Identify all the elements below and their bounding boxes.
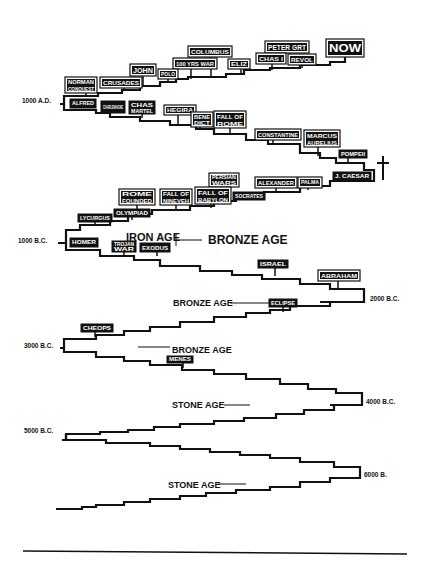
event-text: FALL OF [163,191,189,197]
event-label: HOMER [70,238,98,247]
event-text: FALL OF [217,114,243,120]
event-text: CHEOPS [83,325,112,331]
cross-icon [377,156,389,180]
event-text: CONQUEST [68,86,94,92]
event-label: COLUMBUS [188,46,232,57]
event-text: ROME [217,121,243,127]
date-marker: 6000 B. [364,471,387,478]
event-text: NINEVEH [163,198,189,204]
event-text: ELIZ [231,61,247,67]
event-labels: NOWPETER GRTREVOLCHAS IELIZCOLUMBUS100 Y… [65,39,371,363]
event-label: CHEOPS [81,324,113,332]
event-text: NOW [329,42,362,54]
event-text: CHAS [131,102,154,108]
event-text: CHAS I [259,56,283,62]
event-text: ISRAEL [260,261,286,267]
event-text: PETER GRT [268,44,307,51]
event-text: ALFRED [72,100,94,106]
era-label: IRON AGE [126,231,180,243]
event-text: J. CAESAR [335,173,369,179]
event-text: ECLIPSE [271,300,296,306]
era-label: STONE AGE [168,480,221,490]
date-marker: 2000 B.C. [370,295,399,302]
event-label: EXODUS [140,243,170,252]
event-text: MENES [169,356,192,362]
event-label: PERSIANWARS [209,173,239,187]
event-text: HOMER [72,239,96,245]
event-text: SOCRATES [235,193,264,199]
event-label: PETER GRT [265,41,309,53]
event-text: FALL OF [198,190,228,196]
event-label: POMPEII [339,150,367,158]
event-text: PALMA [301,179,319,185]
event-text: BENE [194,114,211,120]
event-text: BABYLON [198,197,228,203]
event-label: ELIZ [228,59,250,69]
event-label: MARCUSAURELIUS [304,130,340,147]
event-label: NORMANCONQUEST [65,77,97,93]
date-marker: 1000 B.C. [18,237,47,244]
event-label: OLYMPIAD [114,209,150,217]
event-text: POLO [161,71,175,77]
bc-5000-lower-stair [66,434,360,478]
bottom-rule [23,551,407,554]
event-label: J. CAESAR [333,172,371,181]
event-label: CHAS I [256,53,286,64]
era-label: BRONZE AGE [172,345,232,355]
event-label: POLO [158,69,178,79]
date-marker: 3000 B.C. [24,342,53,349]
event-text: POMPEII [341,151,366,157]
date-marker: 5000 B.C. [24,427,53,434]
event-text: CONSTANTINE [258,132,298,138]
event-label: 100 YRS WAR [173,58,217,69]
event-text: COLUMBUS [191,49,229,55]
event-text: DICT [194,120,210,126]
event-label: FALL OFBABYLON [195,187,231,204]
era-label: STONE AGE [172,400,225,410]
event-label: FALL OFNINEVEH [160,189,192,205]
event-label: MENES [167,356,193,363]
event-text: CRUSADES [103,80,139,86]
event-text: ROME [122,191,152,197]
event-label: JOHN [130,64,156,76]
event-label: ISRAEL [258,260,288,268]
timeline-canvas: NOWPETER GRTREVOLCHAS IELIZCOLUMBUS100 Y… [0,0,429,583]
era-label: BRONZE AGE [173,298,233,308]
event-label: ROMEFOUNDED [119,189,155,205]
bc-4000-upper-stair [62,405,362,440]
event-text: MARCUS [307,133,337,139]
timeline-diagram: NOWPETER GRTREVOLCHAS IELIZCOLUMBUS100 Y… [0,0,429,583]
event-label: ABRAHAM [318,270,360,281]
event-label: SOCRATES [233,192,265,200]
event-text: FOUNDED [122,198,153,204]
event-text: JOHN [133,67,153,74]
event-text: MARTEL [131,108,153,114]
event-text: OLYMPIAD [116,210,148,216]
event-text: WAR [114,246,135,252]
event-text: REVOL [291,57,313,63]
bc-3000-lower-stair [64,348,362,405]
event-label: FALL OFROME [214,111,246,128]
event-text: 100 YRS WAR [176,61,215,67]
event-label: ECLIPSE [269,299,297,307]
era-label: BRONZE AGE [208,233,288,247]
event-text: NORMAN [68,79,94,85]
event-text: AURELIUS [307,140,337,146]
event-label: CRUSADES [100,77,142,88]
event-label: BENEDICT [191,112,213,127]
event-label: NOW [326,39,364,57]
event-label: REVOL [288,54,316,65]
date-marker: 4000 B.C. [366,398,395,405]
event-text: LYCURGUS [80,215,111,221]
event-label: PALMA [298,177,322,188]
event-label: CONSTANTINE [255,129,301,140]
event-label: ALFRED [70,99,96,108]
event-text: WARS [212,180,237,186]
event-label: CHASMARTEL [129,101,155,114]
date-marker: 1000 A.D. [22,97,51,104]
event-text: ABRAHAM [321,273,357,279]
event-text: CHARLEMAGNE [103,104,123,110]
event-label: LYCURGUS [78,214,112,222]
event-text: ALEXANDER [258,180,295,186]
event-text: HEGIRA [167,107,194,113]
